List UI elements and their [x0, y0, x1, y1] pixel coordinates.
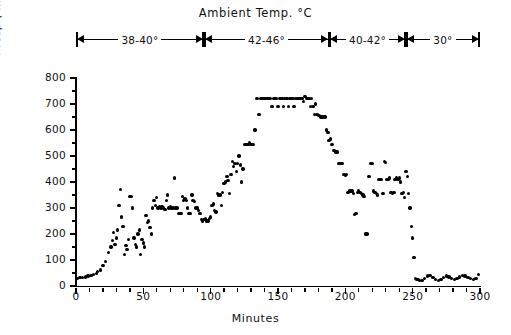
data-point [368, 175, 371, 178]
data-point [121, 225, 124, 228]
data-point [131, 206, 134, 209]
data-point [148, 226, 151, 229]
data-point [111, 239, 114, 242]
y-axis-tick-label: 100 [26, 253, 66, 265]
data-point [138, 228, 141, 231]
x-axis-tick-minor [170, 288, 171, 292]
data-point [240, 180, 243, 183]
data-point [354, 212, 357, 215]
data-point [341, 162, 344, 165]
data-point [99, 268, 102, 271]
data-point [163, 208, 166, 211]
data-point [302, 100, 305, 103]
data-point [239, 163, 242, 166]
data-point [330, 143, 333, 146]
data-point [175, 206, 178, 209]
y-axis-tick-label: 800 [26, 71, 66, 83]
data-point [112, 231, 115, 234]
x-axis-tick-label: 200 [325, 290, 365, 302]
segment-label: 38-40° [76, 31, 204, 49]
data-point [362, 195, 365, 198]
data-point [127, 238, 130, 241]
chart-figure: Ambient Temp. °C 38-40°42-46°40-42°30° f… [0, 0, 511, 335]
data-point [411, 236, 414, 239]
y-axis-tick-minor [72, 168, 76, 169]
data-point [135, 245, 138, 248]
data-point [403, 196, 406, 199]
data-point [314, 102, 317, 105]
data-point [287, 105, 290, 108]
data-point [392, 191, 395, 194]
data-point [408, 206, 411, 209]
data-point [109, 245, 112, 248]
y-axis-tick-minor [72, 220, 76, 221]
data-point [336, 150, 339, 153]
y-axis-tick-major [70, 103, 76, 104]
data-point [214, 210, 217, 213]
data-point [144, 214, 147, 217]
data-point [150, 232, 153, 235]
data-point [193, 200, 196, 203]
data-point [113, 243, 116, 246]
segment-label: 30° [406, 31, 480, 49]
data-point [115, 236, 118, 239]
data-point [345, 173, 348, 176]
data-point [119, 188, 122, 191]
y-axis-tick-minor [72, 142, 76, 143]
y-axis-tick-minor [72, 246, 76, 247]
data-point [107, 251, 110, 254]
x-axis-tick-minor [372, 288, 373, 292]
data-point [221, 191, 224, 194]
data-point [124, 244, 127, 247]
data-point [142, 241, 145, 244]
temperature-segment: 42-46° [204, 30, 329, 50]
data-point [292, 105, 295, 108]
data-point [125, 248, 128, 251]
data-point [365, 232, 368, 235]
data-point [229, 173, 232, 176]
y-axis-tick-label: 200 [26, 227, 66, 239]
segment-label: 40-42° [329, 31, 406, 49]
data-point [402, 191, 405, 194]
data-point [404, 170, 407, 173]
data-point [189, 212, 192, 215]
data-point [165, 199, 168, 202]
data-point [166, 193, 169, 196]
data-point [147, 219, 150, 222]
x-axis-tick-label: 0 [56, 290, 96, 302]
y-axis-title-text: f resp ( min [0, 0, 3, 56]
data-point [326, 131, 329, 134]
data-point [282, 105, 285, 108]
data-point [235, 170, 238, 173]
data-point [220, 204, 223, 207]
x-axis-tick-minor [318, 288, 319, 292]
data-point [388, 176, 391, 179]
data-point [381, 192, 384, 195]
x-axis-tick-minor [237, 288, 238, 292]
data-point [228, 192, 231, 195]
data-point [407, 192, 410, 195]
figure-title: Ambient Temp. °C [0, 6, 511, 20]
data-point [143, 245, 146, 248]
data-point [477, 273, 480, 276]
data-point [474, 277, 477, 280]
data-point [155, 196, 158, 199]
data-point [257, 113, 260, 116]
x-axis-tick-label: 150 [258, 290, 298, 302]
data-point [116, 228, 119, 231]
data-point [384, 161, 387, 164]
data-point [198, 212, 201, 215]
data-point [398, 176, 401, 179]
y-axis-tick-label: 700 [26, 97, 66, 109]
x-axis-tick-label: 50 [123, 290, 163, 302]
y-axis-tick-label: 600 [26, 123, 66, 135]
data-point [209, 215, 212, 218]
data-point [406, 175, 409, 178]
data-point [139, 253, 142, 256]
y-axis-tick-major [70, 233, 76, 234]
data-point [130, 195, 133, 198]
plot-area [76, 78, 480, 286]
x-axis-tick-minor [183, 288, 184, 292]
data-point [399, 180, 402, 183]
data-point [190, 193, 193, 196]
